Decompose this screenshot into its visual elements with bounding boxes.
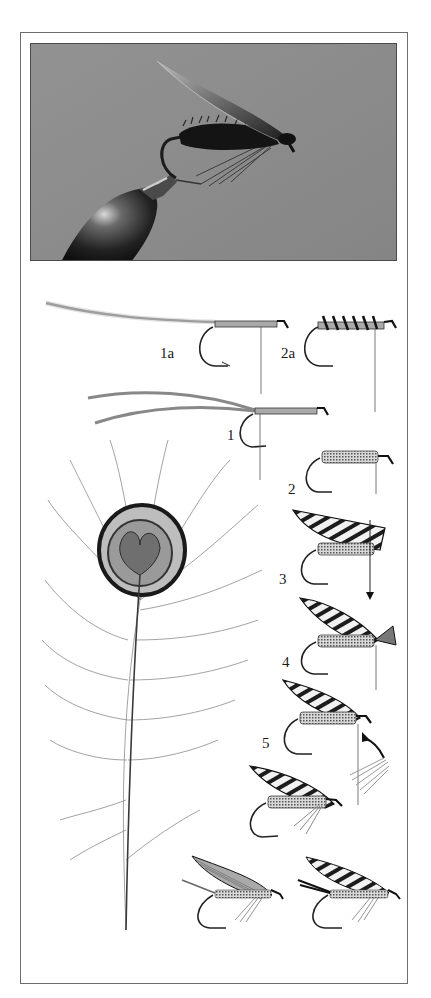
finished-fly-right xyxy=(298,857,400,928)
step-label-4: 4 xyxy=(282,655,290,670)
step-label-5: 5 xyxy=(262,736,270,751)
step-label-2a: 2a xyxy=(281,346,295,361)
step-6-drawing xyxy=(250,766,342,837)
step-3-drawing xyxy=(293,510,385,600)
step-label-1: 1 xyxy=(227,428,235,443)
finished-fly-left xyxy=(182,856,283,928)
step-2a-drawing xyxy=(305,316,396,412)
step-label-1a: 1a xyxy=(160,346,174,361)
step-2-drawing xyxy=(306,451,393,494)
peacock-feather xyxy=(42,440,262,930)
tying-steps-illustration xyxy=(0,0,431,998)
step-label-3: 3 xyxy=(279,572,287,587)
step-1-drawing xyxy=(88,393,328,480)
step-4-drawing xyxy=(300,598,396,690)
step-label-2: 2 xyxy=(288,482,296,497)
